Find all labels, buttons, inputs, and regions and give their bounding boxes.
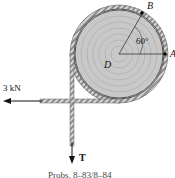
point-a-marker [163, 52, 167, 56]
center-label: D [104, 60, 111, 70]
point-b-marker [140, 11, 144, 15]
angle-label: 60° [136, 37, 149, 46]
force-left-label: 3 kN [3, 84, 21, 93]
drum-rope-diagram [0, 0, 175, 178]
tension-label: T [79, 153, 86, 163]
force-arrow-left [3, 98, 42, 104]
point-b-label: B [147, 1, 153, 11]
caption: Probs. 8–83/8–84 [48, 171, 112, 178]
point-a-label: A [170, 49, 175, 59]
